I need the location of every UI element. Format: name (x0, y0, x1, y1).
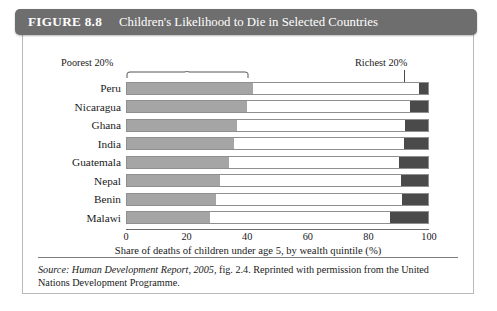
bar-row: India (23, 135, 473, 154)
figure-header-banner: FIGURE 8.8 Children's Likelihood to Die … (15, 9, 477, 35)
country-label-guatemala: Guatemala (23, 153, 121, 172)
segment-richest (410, 101, 428, 112)
x-tick-label: 100 (421, 231, 436, 242)
source-note: Source: Human Development Report, 2005, … (38, 263, 452, 290)
country-label-nicaragua: Nicaragua (23, 98, 121, 117)
bar-track-guatemala (126, 156, 429, 169)
x-axis: 020406080100 (126, 229, 429, 245)
bar-track-benin (126, 193, 429, 206)
x-tick-label: 40 (242, 231, 252, 242)
bar-track-malawi (126, 211, 429, 224)
source-divider (38, 257, 458, 258)
x-axis-line (126, 229, 429, 230)
figure-container: FIGURE 8.8 Children's Likelihood to Die … (22, 16, 474, 294)
bar-track-nicaragua (126, 100, 429, 113)
segment-poorest (127, 157, 229, 168)
bar-row: Benin (23, 190, 473, 209)
bar-row: Malawi (23, 209, 473, 228)
x-tick-label: 80 (363, 231, 373, 242)
segment-poorest (127, 212, 210, 223)
segment-richest (390, 212, 428, 223)
country-label-nepal: Nepal (23, 172, 121, 191)
poorest-quintile-annotation: Poorest 20% (61, 57, 113, 68)
segment-richest (402, 194, 428, 205)
segment-richest (419, 83, 428, 94)
segment-poorest (127, 83, 253, 94)
bar-row: Nicaragua (23, 98, 473, 117)
segment-poorest (127, 138, 234, 149)
country-label-malawi: Malawi (23, 209, 121, 228)
source-prefix: Source: (38, 264, 69, 275)
segment-richest (404, 138, 428, 149)
richest-quintile-annotation: Richest 20% (355, 57, 407, 68)
segment-poorest (127, 194, 216, 205)
poorest-bracket-icon (126, 71, 249, 78)
bar-plot: PeruNicaraguaGhanaIndiaGuatemalaNepalBen… (23, 79, 473, 227)
figure-title: Children's Likelihood to Die in Selected… (119, 15, 378, 30)
country-label-india: India (23, 135, 121, 154)
x-tick-label: 0 (123, 231, 128, 242)
bar-row: Ghana (23, 116, 473, 135)
bar-row: Nepal (23, 172, 473, 191)
segment-poorest (127, 120, 237, 131)
chart-area: Poorest 20% Richest 20% PeruNicaraguaGha… (23, 43, 473, 249)
bar-track-nepal (126, 174, 429, 187)
source-publication: Human Development Report, 2005, (72, 264, 217, 275)
bar-track-peru (126, 82, 429, 95)
bar-row: Peru (23, 79, 473, 98)
x-axis-title: Share of deaths of children under age 5,… (23, 245, 473, 256)
country-label-ghana: Ghana (23, 116, 121, 135)
bar-track-india (126, 137, 429, 150)
figure-number-label: FIGURE 8.8 (28, 14, 102, 30)
segment-poorest (127, 175, 220, 186)
bar-row: Guatemala (23, 153, 473, 172)
x-tick-label: 20 (181, 231, 191, 242)
segment-richest (399, 157, 428, 168)
segment-richest (401, 175, 428, 186)
bar-track-ghana (126, 119, 429, 132)
segment-richest (405, 120, 428, 131)
country-label-peru: Peru (23, 79, 121, 98)
country-label-benin: Benin (23, 190, 121, 209)
x-tick-label: 60 (303, 231, 313, 242)
segment-poorest (127, 101, 247, 112)
